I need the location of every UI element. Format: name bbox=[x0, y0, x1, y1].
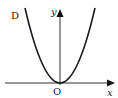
x-axis-arrow-icon bbox=[107, 80, 115, 87]
parabola-diagram: D y O x bbox=[0, 0, 118, 98]
y-axis-label: y bbox=[50, 6, 57, 17]
y-axis-arrow-icon bbox=[57, 9, 64, 17]
x-axis-label: x bbox=[107, 87, 113, 98]
origin-label: O bbox=[53, 86, 61, 97]
curve-label: D bbox=[11, 10, 19, 21]
